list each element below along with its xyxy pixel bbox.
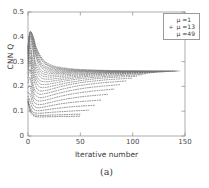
legend-label: μ =49 — [177, 30, 195, 37]
legend-entry: μ =49 — [166, 30, 195, 37]
y-tick-label: 0.1 — [0, 107, 24, 115]
series-curve — [28, 34, 165, 73]
series-curve — [28, 32, 170, 71]
legend-entry: μ =1 — [166, 16, 195, 23]
x-axis-label: Iterative number — [28, 150, 185, 159]
series-curve — [28, 36, 158, 75]
legend: μ =1+μ =13μ =49 — [163, 13, 200, 40]
legend-label: μ =1 — [177, 16, 192, 23]
figure-a: 00.10.20.30.40.5 050100150 CNN Q Iterati… — [0, 0, 209, 188]
series-curve — [28, 86, 108, 105]
legend-marker-icon: + — [166, 23, 177, 30]
series-curve — [28, 31, 178, 71]
x-tick-label: 100 — [123, 138, 143, 146]
figure-caption: (a) — [28, 166, 185, 177]
legend-label: μ =13 — [177, 23, 195, 30]
series-curve — [28, 31, 180, 71]
series-curve — [28, 47, 142, 84]
y-axis-label: CNN Q — [6, 29, 15, 85]
x-tick-label: 150 — [175, 138, 195, 146]
legend-entry: +μ =13 — [166, 23, 195, 30]
x-tick-label: 50 — [70, 138, 90, 146]
series-curve — [28, 93, 101, 108]
y-tick-label: 0.5 — [0, 8, 24, 16]
x-tick-label: 0 — [18, 138, 38, 146]
series-layer — [28, 31, 180, 116]
